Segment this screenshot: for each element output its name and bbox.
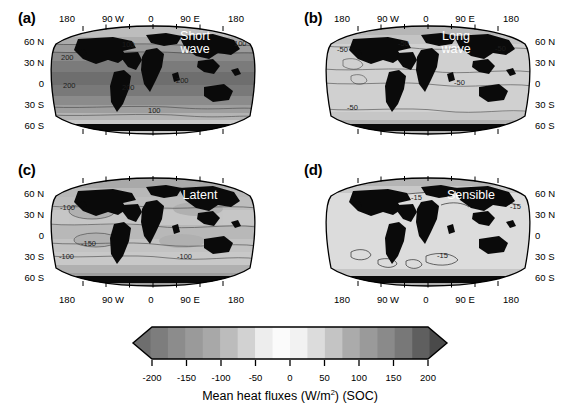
- svg-text:100: 100: [234, 39, 247, 48]
- panel-b-lon-tick-0: 0: [417, 13, 435, 24]
- panel-c-lon-tick-180e: 180: [218, 294, 254, 305]
- panel-d-lat-tick-30s: 30 S: [535, 251, 573, 262]
- figure-root: (a) 180 90 W 0 90 E 180 60 N 30 N 0 30 S…: [0, 0, 573, 405]
- caption-tail: ) (SOC): [335, 389, 378, 403]
- caption-main: Mean heat fluxes (W/m: [202, 389, 331, 403]
- svg-text:-50: -50: [398, 39, 409, 48]
- panel-b-lat-tick-60s: 60 S: [535, 120, 573, 131]
- panel-b: (b) 180 90 W 0 90 E 180 60 N 30 N 0 30 S…: [286, 0, 573, 150]
- panel-b-lon-tick-180w: 180: [324, 13, 360, 24]
- colorbar-bands: [133, 326, 448, 360]
- panel-a-lon-tick-90e: 90 E: [172, 13, 208, 24]
- colorbar: -200-150-100-50050100150200 Mean heat fl…: [130, 326, 450, 401]
- panel-c-lat-tick-0: 0: [4, 230, 44, 241]
- panel-c-lat-tick-60n: 60 N: [4, 188, 44, 199]
- panel-a-lon-tick-90w: 90 W: [95, 13, 131, 24]
- panel-d-lat-tick-30n: 30 N: [535, 209, 573, 220]
- colorbar-swatch: [130, 326, 450, 360]
- colorbar-tick-label: 200: [408, 372, 448, 383]
- panel-a-lon-tick-180e: 180: [218, 13, 254, 24]
- svg-text:-150: -150: [81, 239, 96, 248]
- panel-c-lat-tick-30s: 30 S: [4, 251, 44, 262]
- panel-a-letter: (a): [18, 9, 35, 26]
- panel-d-lat-tick-0: 0: [535, 230, 573, 241]
- panel-d-lat-tick-60n: 60 N: [535, 188, 573, 199]
- panel-b-lat-tick-30s: 30 S: [535, 99, 573, 110]
- panel-b-map: -50 -50 -50 -50 -50: [323, 24, 533, 136]
- panel-d-field: [323, 176, 533, 288]
- svg-text:-15: -15: [510, 202, 521, 211]
- panel-c-lon-tick-0: 0: [142, 294, 160, 305]
- panel-d: (d) 60 N 30 N 0 30 S 60 S: [286, 152, 573, 307]
- panel-c-lon-tick-90w: 90 W: [95, 294, 131, 305]
- panel-b-lat-tick-0: 0: [535, 78, 573, 89]
- colorbar-caption: Mean heat fluxes (W/m2) (SOC): [130, 388, 450, 403]
- panel-d-map-svg: -15 -15 -15: [323, 176, 533, 288]
- panel-c-map: -100 -150 -100 -100: [48, 176, 258, 288]
- panel-a-lat-tick-0: 0: [4, 78, 44, 89]
- panel-a-lat-tick-30n: 30 N: [4, 57, 44, 68]
- panel-a-lat-tick-30s: 30 S: [4, 99, 44, 110]
- panel-c-lat-tick-60s: 60 S: [4, 272, 44, 283]
- panel-d-lat-tick-60s: 60 S: [535, 272, 573, 283]
- panel-d-lon-tick-90e: 90 E: [447, 294, 483, 305]
- svg-text:200: 200: [61, 53, 74, 62]
- panel-a-lon-tick-0: 0: [142, 13, 160, 24]
- panel-c-lat-tick-30n: 30 N: [4, 209, 44, 220]
- svg-text:-15: -15: [411, 193, 422, 202]
- svg-text:100: 100: [122, 40, 135, 49]
- panel-b-lon-tick-180e: 180: [493, 13, 529, 24]
- panel-a-map-svg: 100 200 200 200 200 100 100: [48, 24, 258, 136]
- svg-text:-100: -100: [60, 203, 75, 212]
- panel-c-lon-tick-180w: 180: [49, 294, 85, 305]
- panel-b-lon-tick-90w: 90 W: [370, 13, 406, 24]
- svg-text:-50: -50: [347, 103, 358, 112]
- colorbar-ticks: [130, 360, 450, 370]
- panel-a-lat-tick-60n: 60 N: [4, 36, 44, 47]
- panel-d-map: -15 -15 -15: [323, 176, 533, 288]
- svg-text:-100: -100: [59, 252, 74, 261]
- svg-text:-15: -15: [437, 251, 448, 260]
- svg-text:200: 200: [176, 76, 189, 85]
- svg-text:-50: -50: [337, 45, 348, 54]
- panel-b-lon-tick-90e: 90 E: [447, 13, 483, 24]
- panel-d-lon-tick-180e: 180: [493, 294, 529, 305]
- panel-a-map: 100 200 200 200 200 100 100: [48, 24, 258, 136]
- panel-d-lon-tick-180w: 180: [324, 294, 360, 305]
- svg-text:-100: -100: [177, 252, 192, 261]
- panel-c-field: [48, 176, 258, 288]
- svg-text:200: 200: [63, 81, 76, 90]
- panel-d-lon-tick-0: 0: [417, 294, 435, 305]
- svg-text:-50: -50: [495, 44, 506, 53]
- panel-c-letter: (c): [18, 161, 35, 178]
- panel-b-letter: (b): [304, 9, 322, 26]
- panel-b-lat-tick-60n: 60 N: [535, 36, 573, 47]
- panel-a: (a) 180 90 W 0 90 E 180 60 N 30 N 0 30 S…: [0, 0, 286, 150]
- panel-a-lat-tick-60s: 60 S: [4, 120, 44, 131]
- panel-a-lon-tick-180w: 180: [49, 13, 85, 24]
- panel-d-lon-tick-90w: 90 W: [370, 294, 406, 305]
- panel-b-map-svg: -50 -50 -50 -50 -50: [323, 24, 533, 136]
- panel-c: (c) 60 N 30 N 0 30 S 60 S: [0, 152, 286, 307]
- svg-text:200: 200: [122, 83, 135, 92]
- panel-c-map-svg: -100 -150 -100 -100: [48, 176, 258, 288]
- panel-c-lon-tick-90e: 90 E: [172, 294, 208, 305]
- svg-text:100: 100: [148, 106, 161, 115]
- panel-b-lat-tick-30n: 30 N: [535, 57, 573, 68]
- panel-a-field: [48, 24, 258, 136]
- panel-d-letter: (d): [304, 161, 322, 178]
- panel-b-field: [323, 24, 533, 136]
- svg-text:-50: -50: [454, 78, 465, 87]
